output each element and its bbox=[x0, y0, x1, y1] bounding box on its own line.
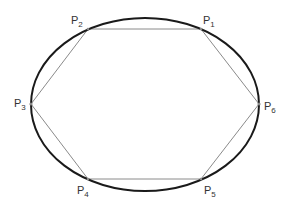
vertex-p4 bbox=[87, 178, 90, 181]
label-p4: P4 bbox=[77, 184, 89, 199]
vertex-p1 bbox=[200, 28, 203, 31]
label-p5: P5 bbox=[204, 184, 216, 199]
vertex-p5 bbox=[200, 178, 203, 181]
label-p3: P3 bbox=[14, 97, 26, 112]
label-p1: P1 bbox=[203, 14, 215, 29]
vertex-p2 bbox=[87, 28, 90, 31]
vertex-p3 bbox=[29, 102, 32, 105]
ellipse bbox=[31, 18, 259, 191]
vertex-p6 bbox=[257, 102, 260, 105]
label-p6: P6 bbox=[264, 100, 276, 115]
inscribed-hexagon bbox=[31, 29, 259, 179]
label-p2: P2 bbox=[71, 14, 83, 29]
vertex-markers bbox=[29, 28, 260, 181]
ellipse-hexagon-diagram: P1 P2 P3 P4 P5 P6 bbox=[0, 0, 284, 206]
